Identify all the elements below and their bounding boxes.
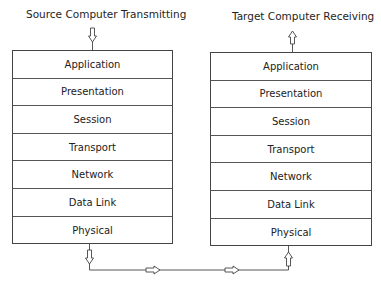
right-arrow-icon [225,266,239,274]
down-arrow-icon [89,28,97,50]
connection-overlay [0,0,381,285]
physical-link-wire [90,244,289,270]
up-arrow-icon [289,31,297,52]
right-arrow-icon [146,266,160,274]
down-arrow-icon [86,250,94,264]
up-arrow-icon [285,252,293,266]
